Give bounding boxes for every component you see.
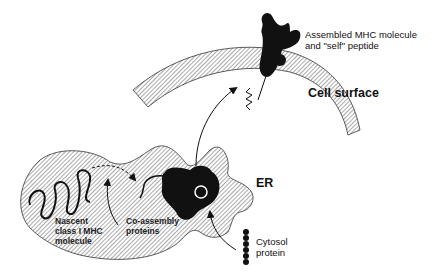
label-cytosol-line2: protein: [256, 248, 288, 259]
self-peptide-squiggle: [246, 88, 252, 110]
label-assembled-line2: and "self" peptide: [305, 41, 417, 52]
label-er: ER: [256, 176, 273, 190]
cytosol-protein-beads: [243, 229, 249, 265]
label-coassembly-proteins: Co-assembly proteins: [126, 217, 179, 237]
label-coassembly-line2: proteins: [126, 227, 179, 237]
label-nascent-line3: molecule: [55, 237, 103, 247]
label-cytosol-protein: Cytosol protein: [256, 237, 288, 259]
label-assembled-mhc: Assembled MHC molecule and "self" peptid…: [305, 30, 417, 52]
beta2m-domain: [274, 54, 286, 66]
label-cell-surface: Cell surface: [308, 86, 379, 100]
label-nascent-mhc: Nascent class I MHC molecule: [55, 217, 103, 246]
